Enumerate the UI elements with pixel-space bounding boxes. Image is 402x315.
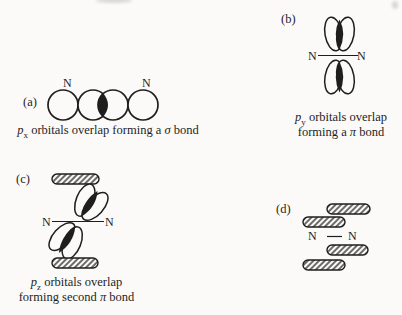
nitrogen-label: N: [357, 49, 366, 64]
caption-text: orbitals overlap: [306, 110, 387, 124]
caption-text: forming second: [19, 290, 100, 304]
pi-cloud-hatched: [303, 217, 345, 227]
caption-line: pz orbitals overlap: [8, 275, 145, 290]
caption-text: orbitals overlap: [41, 275, 122, 289]
caption-line: forming second π bond: [8, 290, 145, 305]
panel-d-label: (d): [276, 202, 291, 217]
py-pi-overlap-diagram: [318, 16, 358, 95]
nitrogen-label: N: [42, 215, 51, 230]
caption-text: bond: [356, 125, 384, 139]
diagram-canvas: [0, 0, 402, 315]
nitrogen-label: N: [348, 229, 357, 244]
px-sigma-overlap-diagram: [48, 90, 158, 120]
panel-c-label: (c): [16, 172, 30, 187]
nitrogen-label: N: [142, 76, 151, 91]
caption-text: forming a: [298, 125, 350, 139]
pi-cloud-hatched: [327, 245, 368, 255]
p-lobe: [128, 90, 158, 120]
p-lobe: [48, 90, 78, 120]
caption-b: py orbitals overlap forming a π bond: [282, 110, 400, 139]
pi-cloud-hatched: [52, 258, 98, 268]
nitrogen-label: N: [105, 215, 114, 230]
caption-text: bond: [106, 290, 134, 304]
caption-text: orbitals overlap forming a: [28, 123, 164, 137]
pz-pi-overlap-diagram: [43, 174, 114, 268]
caption-line: py orbitals overlap: [282, 110, 400, 125]
nitrogen-label: N: [63, 76, 72, 91]
caption-text: bond: [171, 123, 199, 137]
pi-cloud-hatched: [327, 204, 370, 214]
nitrogen-label: N: [308, 229, 317, 244]
caption-line: forming a π bond: [282, 125, 400, 140]
panel-b-label: (b): [281, 12, 296, 27]
caption-c: pz orbitals overlap forming second π bon…: [8, 275, 145, 304]
pi-cloud-hatched: [52, 174, 99, 184]
caption-a: px orbitals overlap forming a σ bond: [8, 123, 208, 138]
panel-a-label: (a): [23, 95, 37, 110]
figure-orbital-overlap: (a) N N px orbitals overlap forming a σ …: [0, 0, 402, 315]
nitrogen-label: N: [308, 49, 317, 64]
pi-cloud-hatched: [303, 260, 345, 270]
